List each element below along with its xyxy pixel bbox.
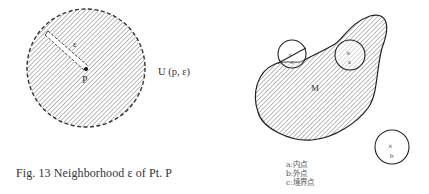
interior-point-a: × a [335,40,365,70]
legend-item-a: a:内点 [286,160,314,169]
legend-item-c: c:境界点 [286,178,314,187]
exterior-point-b: × b [375,130,409,164]
svg-text:b: b [390,152,394,160]
svg-text:×: × [288,51,292,59]
set-label: U (p, ε) [158,66,191,78]
point-legend: a:内点 b:外点 c:境界点 [286,160,314,187]
svg-text:c: c [291,59,294,65]
region-label: M [311,83,319,93]
figure-canvas: ε P U (p, ε) M × c × a × b [0,0,429,194]
neighborhood-disk: ε P [27,9,145,127]
boundary-point-c: × c [278,40,306,68]
center-label: P [82,74,88,85]
svg-text:×: × [346,49,351,58]
svg-text:×: × [388,142,393,151]
center-point-p [84,67,88,71]
region-m: M [255,15,386,140]
radius-label: ε [73,39,77,49]
legend-item-b: b:外点 [286,169,314,178]
figure-caption: Fig. 13 Neighborhood ε of Pt. P [16,166,172,181]
svg-text:a: a [348,59,351,65]
